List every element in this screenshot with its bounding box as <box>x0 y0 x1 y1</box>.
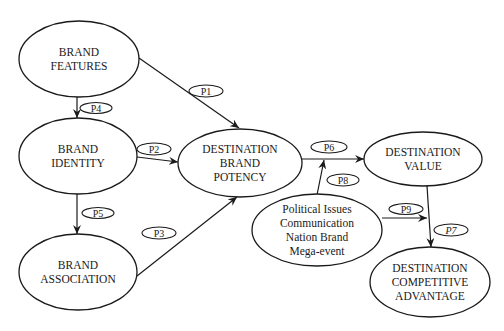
node-brand-association: BRANDASSOCIATION <box>19 234 137 310</box>
node-label-line: VALUE <box>404 160 441 172</box>
node-ellipse <box>19 118 137 194</box>
label-text: P9 <box>401 204 412 215</box>
path-label-p8: P8 <box>327 174 359 186</box>
path-label-p2: P2 <box>137 143 171 155</box>
node-label-line: BRAND <box>59 46 99 58</box>
node-moderators: Political IssuesCommunicationNation Bran… <box>252 194 382 266</box>
label-text: P8 <box>338 175 349 186</box>
node-label-line: ADVANTAGE <box>395 290 465 302</box>
arrow-p7 <box>427 186 431 247</box>
label-text: P1 <box>201 86 212 97</box>
nodes: BRANDFEATURESBRANDIDENTITYBRANDASSOCIATI… <box>19 21 490 317</box>
node-ellipse <box>19 21 139 97</box>
node-ellipse <box>364 132 482 186</box>
node-label-line: POTENCY <box>213 171 267 183</box>
node-label-line: BRAND <box>58 259 98 271</box>
node-label-line: Nation Brand <box>286 231 349 243</box>
conceptual-model-diagram: BRANDFEATURESBRANDIDENTITYBRANDASSOCIATI… <box>0 0 504 331</box>
path-label-p5: P5 <box>82 208 114 219</box>
label-text: P4 <box>91 103 102 114</box>
node-label-line: Political Issues <box>282 203 352 215</box>
path-label-p4: P4 <box>80 103 112 114</box>
node-label-line: DESTINATION <box>385 146 461 158</box>
path-label-p9: P9 <box>389 204 423 215</box>
node-label-line: COMPETITIVE <box>392 276 469 288</box>
node-destination-brand-potency: DESTINATIONBRANDPOTENCY <box>178 129 302 197</box>
node-label-line: Communication <box>280 217 354 229</box>
label-text: P5 <box>93 208 104 219</box>
node-label-line: BRAND <box>58 143 98 155</box>
node-label-line: DESTINATION <box>202 143 278 155</box>
node-destination-competitive-advantage: DESTINATIONCOMPETITIVEADVANTAGE <box>370 247 490 317</box>
arrow-p2 <box>137 157 178 162</box>
label-text: P6 <box>324 142 335 153</box>
label-text: P3 <box>154 228 165 239</box>
node-label-line: Mega-event <box>290 245 346 258</box>
arrow-p1 <box>139 58 239 128</box>
path-label-p1: P1 <box>189 85 223 97</box>
path-label-p7: P7 <box>434 224 468 236</box>
node-label-line: IDENTITY <box>51 157 105 169</box>
label-text: P7 <box>444 225 457 236</box>
node-ellipse <box>19 234 137 310</box>
path-label-p6: P6 <box>311 141 347 153</box>
node-brand-features: BRANDFEATURES <box>19 21 139 97</box>
arrow-p8 <box>317 160 324 195</box>
node-label-line: BRAND <box>220 157 260 169</box>
node-brand-identity: BRANDIDENTITY <box>19 118 137 194</box>
path-label-p3: P3 <box>142 227 176 239</box>
node-label-line: FEATURES <box>51 60 108 72</box>
node-destination-value: DESTINATIONVALUE <box>364 132 482 186</box>
node-label-line: DESTINATION <box>392 262 468 274</box>
label-text: P2 <box>149 144 160 155</box>
node-label-line: ASSOCIATION <box>40 273 116 285</box>
